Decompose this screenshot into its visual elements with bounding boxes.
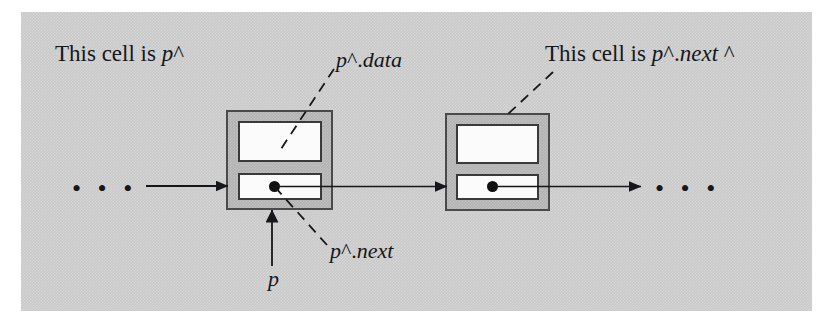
right-cell-caption-prefix: This cell is [545,41,652,66]
figure-page: • • • • • • This cell is p^ This cell is… [0,0,824,329]
right-cell-caption-field: next [680,41,718,66]
data-field-label-sep: ^. [347,47,363,72]
left-cell-caption-var: p [162,41,174,66]
right-ellipsis: • • • [655,176,720,202]
next-field-label-var: p [330,238,341,263]
data-field-label: p^.data [336,49,402,71]
right-cell-caption-suffix: ^ [718,41,735,66]
data-label-leader [279,69,334,152]
data-field-label-var: p [336,47,347,72]
next-field-label-sep: ^. [341,238,357,263]
data-field-label-field: data [363,47,402,72]
right-cell-caption-var: p [652,41,664,66]
next-field-label-field: next [357,238,394,263]
p-pointer-label: p [268,268,279,290]
left-cell-caption-prefix: This cell is [55,41,162,66]
right-caption-leader [508,72,553,114]
left-cell-caption: This cell is p^ [55,42,184,65]
left-cell-caption-suffix: ^ [173,41,184,66]
left-ellipsis: • • • [72,176,137,202]
right-cell-caption-mid: ^. [663,41,680,66]
next-field-label: p^.next [330,240,393,262]
next-label-leader [274,186,327,245]
right-cell-caption: This cell is p^.next ^ [545,42,735,65]
